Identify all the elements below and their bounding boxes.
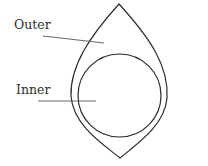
outer-shape (71, 4, 167, 158)
inner-circle (78, 54, 161, 137)
diagram-svg: Outer Inner (0, 0, 208, 166)
inner-label: Inner (16, 82, 50, 97)
diagram-canvas: Outer Inner (0, 0, 208, 166)
outer-label: Outer (14, 17, 51, 32)
outer-leader-line (43, 36, 104, 43)
